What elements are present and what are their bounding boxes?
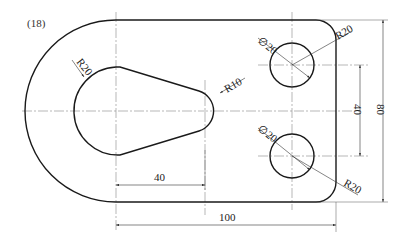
dimension-lines — [116, 20, 383, 225]
lower-corner-r20-label: R20 — [342, 176, 364, 196]
hole-spacing-label: 40 — [352, 104, 364, 116]
upper-corner-r20-label: R20 — [333, 22, 355, 42]
upper-hole-dia-label: ∅20 — [256, 34, 280, 57]
overall-height-label: 80 — [375, 104, 387, 116]
technical-drawing: (18) R20 R10 ∅20 R20 ∅ — [0, 0, 409, 245]
r10-label: R10 — [222, 75, 244, 95]
slot-length-label: 40 — [154, 171, 166, 183]
overall-length-label: 100 — [219, 211, 236, 223]
figure-number: (18) — [27, 17, 46, 30]
centerlines — [22, 12, 368, 230]
leaders — [72, 31, 358, 195]
extension-lines — [205, 20, 388, 232]
